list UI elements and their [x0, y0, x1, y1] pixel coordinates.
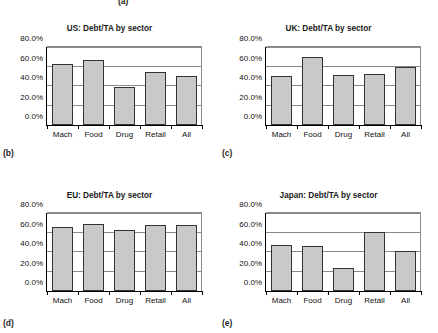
bar [333, 268, 354, 291]
x-axis-tick [140, 291, 141, 295]
x-axis-tick-label: Drug [109, 296, 140, 305]
bar-slot [140, 213, 171, 291]
bar [364, 74, 385, 125]
bar [145, 225, 166, 291]
y-axis-tick-label: 40.0% [239, 239, 262, 248]
y-axis-tick-label: 80.0% [20, 200, 43, 209]
x-axis-tick-label: Food [297, 296, 328, 305]
x-axis-tick [266, 291, 267, 295]
y-axis-tick-label: 0.0% [25, 112, 43, 121]
x-axis-tick [328, 125, 329, 129]
bar [364, 232, 385, 291]
chart-title-us: US: Debt/TA by sector [0, 24, 219, 33]
y-axis-tick-label: 60.0% [20, 53, 43, 62]
x-axis-tick [202, 291, 203, 295]
bar-series [266, 213, 421, 291]
bar-slot [328, 213, 359, 291]
x-axis-tick [328, 291, 329, 295]
bar [176, 225, 197, 291]
y-axis-tick-label: 60.0% [239, 53, 262, 62]
x-axis-tick [171, 125, 172, 129]
x-axis-tick-label: Mach [47, 296, 78, 305]
x-axis-tick-label: All [390, 130, 421, 139]
bar-slot [328, 47, 359, 125]
x-axis-tick-label: Drug [328, 130, 359, 139]
bar-slot [109, 47, 140, 125]
x-axis-tick [140, 125, 141, 129]
x-axis-tick [297, 291, 298, 295]
x-axis-labels: MachFoodDrugRetailAll [266, 130, 421, 139]
bar [395, 67, 416, 125]
bar [271, 245, 292, 291]
bar-slot [47, 213, 78, 291]
panel-caption-b: (b) [3, 148, 14, 158]
chart-panel-uk: UK: Debt/TA by sector 0.0%20.0%40.0%60.0… [219, 0, 438, 166]
chart-panel-eu: EU: Debt/TA by sector 0.0%20.0%40.0%60.0… [0, 166, 219, 332]
y-axis-tick-label: 80.0% [20, 34, 43, 43]
bar [83, 60, 104, 125]
y-axis-tick-label: 20.0% [20, 258, 43, 267]
bar [83, 224, 104, 291]
x-axis-tick [297, 125, 298, 129]
x-axis-tick-label: Food [78, 130, 109, 139]
figure-panel-grid: (a) US: Debt/TA by sector 0.0%20.0%40.0%… [0, 0, 438, 333]
bar [333, 75, 354, 125]
x-axis-tick-label: Mach [266, 296, 297, 305]
x-axis-tick [390, 291, 391, 295]
bar [114, 230, 135, 291]
y-axis-tick-label: 60.0% [20, 219, 43, 228]
bar-slot [297, 47, 328, 125]
bar-slot [390, 213, 421, 291]
x-axis-tick-label: All [171, 296, 202, 305]
plot-area-japan: 0.0%20.0%40.0%60.0%80.0%MachFoodDrugReta… [265, 213, 421, 292]
plot-area-uk: 0.0%20.0%40.0%60.0%80.0%MachFoodDrugReta… [265, 47, 421, 126]
plot-area-eu: 0.0%20.0%40.0%60.0%80.0%MachFoodDrugReta… [46, 213, 202, 292]
x-axis-tick [421, 125, 422, 129]
bar-slot [140, 47, 171, 125]
bar [52, 227, 73, 291]
bar-series [47, 47, 202, 125]
x-axis-tick-label: Food [297, 130, 328, 139]
x-axis-tick-label: Retail [359, 296, 390, 305]
bar [145, 72, 166, 125]
x-axis-tick-label: Mach [266, 130, 297, 139]
x-axis-tick [171, 291, 172, 295]
y-axis-tick-label: 20.0% [239, 258, 262, 267]
y-axis-tick-label: 40.0% [20, 73, 43, 82]
panel-caption-e: (e) [222, 318, 232, 328]
y-axis-tick-label: 80.0% [239, 34, 262, 43]
x-axis-tick [78, 291, 79, 295]
bar [302, 57, 323, 125]
x-axis-tick-label: Retail [140, 296, 171, 305]
bar-slot [359, 47, 390, 125]
chart-panel-us: US: Debt/TA by sector 0.0%20.0%40.0%60.0… [0, 0, 219, 166]
bar [302, 246, 323, 291]
x-axis-tick [78, 125, 79, 129]
x-axis-tick-label: Mach [47, 130, 78, 139]
bar [271, 76, 292, 125]
bar-slot [171, 47, 202, 125]
bar-slot [78, 47, 109, 125]
x-axis-tick [109, 125, 110, 129]
y-axis-tick-label: 20.0% [20, 92, 43, 101]
bar [395, 251, 416, 291]
y-axis-tick-label: 40.0% [20, 239, 43, 248]
plot-area-us: 0.0%20.0%40.0%60.0%80.0%MachFoodDrugReta… [46, 47, 202, 126]
chart-title-uk: UK: Debt/TA by sector [219, 24, 438, 33]
x-axis-tick [266, 125, 267, 129]
x-axis-tick [359, 291, 360, 295]
x-axis-tick [109, 291, 110, 295]
y-axis-tick-label: 40.0% [239, 73, 262, 82]
bar [176, 76, 197, 125]
x-axis-tick-label: All [171, 130, 202, 139]
y-axis-tick-label: 0.0% [244, 278, 262, 287]
panel-caption-d: (d) [3, 318, 14, 328]
bar-slot [109, 213, 140, 291]
x-axis-tick [202, 125, 203, 129]
x-axis-tick-label: Retail [359, 130, 390, 139]
bar-slot [266, 213, 297, 291]
x-axis-tick [421, 291, 422, 295]
x-axis-labels: MachFoodDrugRetailAll [266, 296, 421, 305]
x-axis-labels: MachFoodDrugRetailAll [47, 296, 202, 305]
bar-slot [78, 213, 109, 291]
